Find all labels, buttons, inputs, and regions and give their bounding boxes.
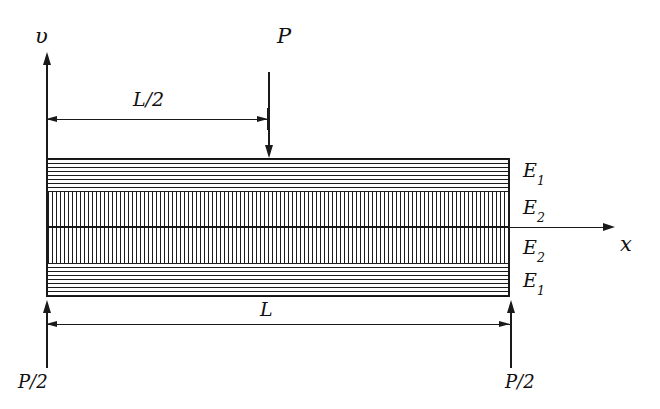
layer-label-E2-lower: E2 bbox=[523, 238, 545, 261]
x-axis-label: x bbox=[620, 234, 632, 255]
half-span-label: L/2 bbox=[133, 90, 164, 109]
load-P-label: P bbox=[277, 26, 291, 47]
reaction-left-arrowhead bbox=[43, 300, 51, 313]
beam-diagram: υ P L/2 E1 E2 E2 E1 x L bbox=[0, 0, 660, 409]
layer-label-E2-lower-subscript: 2 bbox=[537, 250, 545, 265]
reaction-left-shaft bbox=[46, 310, 48, 368]
layer-label-E1-bottom: E1 bbox=[523, 271, 545, 294]
reaction-left-label: P/2 bbox=[18, 373, 48, 391]
layer-label-E2-upper: E2 bbox=[523, 198, 545, 221]
beam-layer-E1-top bbox=[48, 158, 508, 192]
full-span-arrow-right bbox=[499, 321, 510, 327]
layer-label-E1-top-subscript: 1 bbox=[537, 173, 545, 188]
v-axis-arrowhead bbox=[43, 52, 51, 65]
layer-label-E1-top-symbol: E bbox=[523, 159, 537, 181]
v-axis-line bbox=[46, 62, 48, 158]
layer-label-E2-upper-subscript: 2 bbox=[537, 210, 545, 225]
v-axis-label: υ bbox=[35, 26, 48, 47]
x-axis-line bbox=[510, 227, 605, 228]
reaction-right-shaft bbox=[510, 310, 512, 368]
load-P-arrowhead bbox=[265, 145, 273, 158]
layer-label-E1-bottom-subscript: 1 bbox=[537, 283, 545, 298]
layer-label-E1-bottom-symbol: E bbox=[523, 269, 537, 291]
layer-label-E2-lower-symbol: E bbox=[523, 236, 537, 258]
laminated-beam bbox=[46, 158, 510, 297]
reaction-right-label: P/2 bbox=[505, 373, 535, 391]
beam-layer-E1-bottom bbox=[48, 263, 508, 297]
beam-layer-E2-lower bbox=[48, 228, 508, 263]
half-span-dimension-line bbox=[46, 119, 268, 120]
full-span-label: L bbox=[260, 300, 273, 319]
beam-layer-E2-upper bbox=[48, 192, 508, 227]
x-axis-arrowhead bbox=[603, 223, 615, 231]
layer-label-E1-top: E1 bbox=[523, 161, 545, 184]
layer-label-E2-upper-symbol: E bbox=[523, 196, 537, 218]
reaction-right-arrowhead bbox=[507, 300, 515, 313]
half-span-tick-right bbox=[267, 108, 269, 130]
full-span-dimension-line bbox=[46, 324, 510, 325]
half-span-arrow-left bbox=[46, 116, 57, 122]
